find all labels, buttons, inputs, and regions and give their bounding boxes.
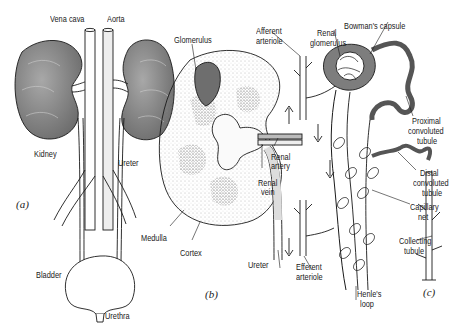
label-efferent-line2: arteriole	[296, 272, 323, 282]
label-distal-line3: tubule	[422, 188, 442, 198]
label-renal-vein-line2: vein	[261, 187, 275, 197]
label-henle-line1: Henle's	[357, 289, 381, 299]
label-capillary-line2: net	[418, 212, 428, 222]
panel-label-a: (a)	[16, 198, 29, 210]
bladder	[65, 256, 134, 314]
label-collecting-line1: Collecting	[399, 236, 431, 246]
label-afferent-line1: Afferent	[256, 26, 282, 36]
panel-label-c: (c)	[423, 286, 435, 298]
label-bladder: Bladder	[36, 270, 61, 280]
label-proximal-line3: tubule	[417, 136, 437, 146]
distal-tubule	[372, 146, 430, 160]
label-vena-cava: Vena cava	[50, 14, 84, 24]
left-kidney	[15, 40, 82, 139]
label-henle-line2: loop	[360, 299, 374, 309]
label-efferent-line1: Efferent	[296, 262, 322, 272]
label-proximal-line1: Proximal	[412, 116, 441, 126]
label-renal-glomerulus-line2: glomerulus	[310, 38, 346, 48]
kidney-anatomy-figure: (a) (b) (c) Vena cava Aorta Kidney Urete…	[0, 0, 459, 333]
label-medulla: Medulla	[141, 233, 167, 243]
label-urethra: Urethra	[105, 311, 130, 321]
label-collecting-line2: tubule	[404, 246, 424, 256]
label-glomerulus: Glomerulus	[174, 35, 212, 45]
label-distal-line1: Distal	[420, 168, 438, 178]
label-capillary-line1: Capillary	[410, 202, 439, 212]
label-kidney: Kidney	[34, 149, 57, 159]
figure-artwork	[0, 0, 459, 333]
proximal-tubule	[372, 43, 413, 120]
label-afferent-line2: arteriole	[256, 36, 283, 46]
label-ureter-b: Ureter	[248, 260, 269, 270]
label-aorta: Aorta	[107, 14, 125, 24]
label-proximal-line2: convoluted	[408, 126, 444, 136]
label-bowmans-capsule: Bowman's capsule	[344, 21, 405, 31]
label-cortex: Cortex	[180, 248, 202, 258]
label-renal-artery-line2: artery	[271, 161, 290, 171]
label-distal-line2: convoluted	[413, 178, 449, 188]
panel-label-b: (b)	[205, 288, 218, 300]
label-renal-glomerulus-line1: Renal	[317, 28, 336, 38]
label-ureter-a: Ureter	[118, 158, 139, 168]
